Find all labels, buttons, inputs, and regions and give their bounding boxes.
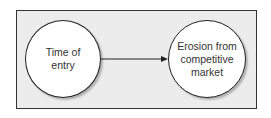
node-label: Time of entry (46, 46, 81, 72)
node-label: Erosion from competitive market (177, 40, 237, 79)
arrowhead-icon (161, 56, 168, 62)
node-time-of-entry: Time of entry (25, 20, 101, 98)
node-erosion-from-competitive-market: Erosion from competitive market (168, 20, 246, 98)
